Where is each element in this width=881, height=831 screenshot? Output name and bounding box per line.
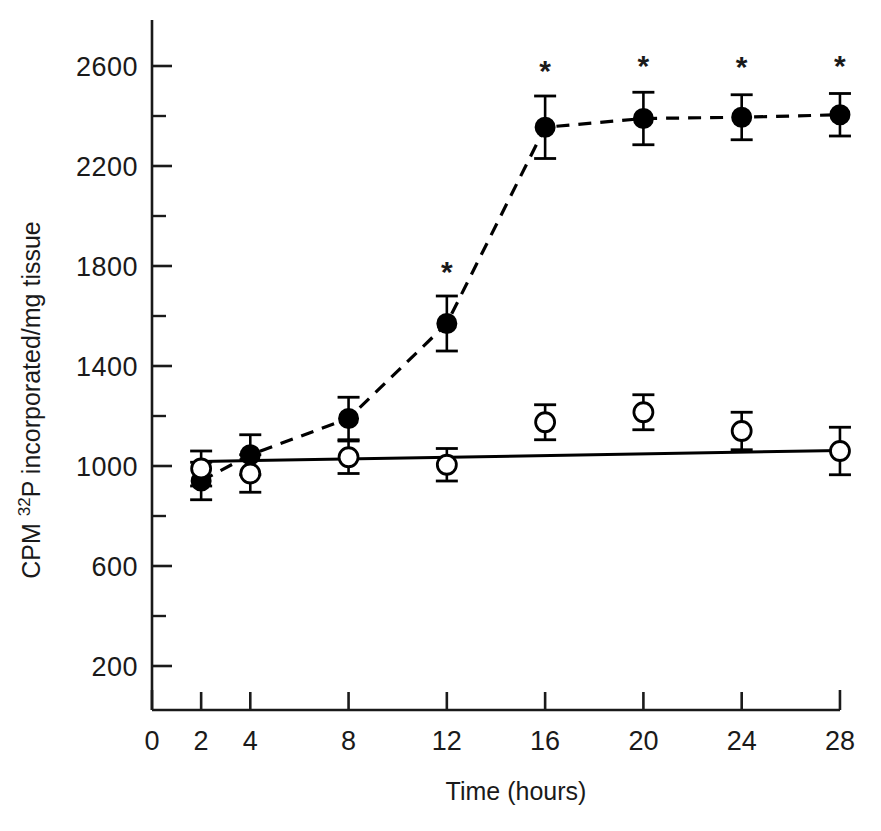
figure-panel: 20060010001400180022002600 0248121620242…	[0, 0, 881, 831]
filled-circle-marker	[437, 314, 456, 333]
filled-circle-marker	[536, 118, 555, 137]
filled-circle-marker	[634, 109, 653, 128]
y-axis-tick-label: 2600	[76, 52, 138, 82]
y-axis-tick-label: 1000	[76, 452, 138, 482]
open-circle-marker	[339, 448, 358, 467]
x-axis-tick-label: 12	[432, 726, 462, 756]
filled-circle-marker	[732, 108, 751, 127]
significance-asterisk: *	[441, 255, 453, 288]
x-axis-tick-label: 0	[144, 726, 159, 756]
y-axis-tick-label: 600	[91, 552, 138, 582]
y-axis-tick-label: 200	[91, 652, 138, 682]
x-axis-tick-label: 24	[727, 726, 757, 756]
x-axis-tick-label: 4	[243, 726, 258, 756]
y-axis-title-suffix: P incorporated/mg tissue	[17, 221, 45, 497]
line-chart: 20060010001400180022002600 0248121620242…	[0, 0, 881, 831]
y-axis-tick-label: 1400	[76, 352, 138, 382]
filled-circle-marker	[241, 445, 260, 464]
open-circle-marker	[536, 413, 555, 432]
x-axis-title: Time (hours)	[446, 777, 587, 805]
open-circle-marker	[634, 403, 653, 422]
x-axis-tick-label: 2	[194, 726, 209, 756]
open-circle-marker	[192, 459, 211, 478]
significance-asterisk: *	[539, 54, 551, 87]
y-axis-tick-label: 2200	[76, 152, 138, 182]
significance-asterisk: *	[638, 49, 650, 82]
y-axis-title: CPM 32P incorporated/mg tissue	[15, 221, 45, 579]
x-axis-tick-label: 8	[341, 726, 356, 756]
open-circle-marker	[241, 464, 260, 483]
filled-circle-marker	[339, 409, 358, 428]
x-axis-tick-label: 20	[628, 726, 658, 756]
y-axis-title-superscript: 32	[15, 497, 34, 516]
filled-circle-marker	[830, 105, 849, 124]
open-circle-marker	[732, 422, 751, 441]
x-axis-tick-label: 28	[825, 726, 855, 756]
y-axis-tick-label: 1800	[76, 252, 138, 282]
x-axis-tick-label: 16	[530, 726, 560, 756]
significance-asterisk: *	[834, 49, 846, 82]
significance-asterisk: *	[736, 50, 748, 83]
open-circle-marker	[830, 442, 849, 461]
y-axis-title-prefix: CPM	[17, 516, 45, 579]
svg-text:CPM 32P incorporated/mg tissue: CPM 32P incorporated/mg tissue	[15, 221, 45, 579]
open-circle-marker	[437, 455, 456, 474]
